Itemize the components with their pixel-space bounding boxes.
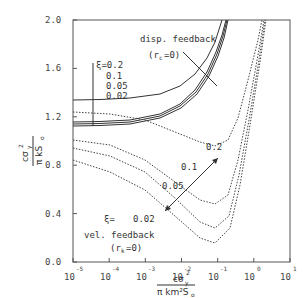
svg-text:0: 0 bbox=[257, 265, 261, 272]
svg-text:y: y bbox=[25, 145, 33, 149]
svg-text:2: 2 bbox=[186, 269, 190, 276]
annotation-disp-feedback: disp. feedback bbox=[140, 34, 216, 44]
svg-text:10: 10 bbox=[208, 272, 219, 282]
svg-text:(r: (r bbox=[148, 50, 159, 60]
x-tick-label: 10-3 bbox=[136, 265, 156, 282]
y-tick-label: 0.4 bbox=[45, 209, 61, 219]
svg-text:π km²S: π km²S bbox=[157, 287, 189, 297]
annotation-xi-0.02-disp: 0.02 bbox=[106, 91, 128, 101]
svg-text:π kS: π kS bbox=[34, 146, 44, 165]
svg-text:10: 10 bbox=[64, 272, 75, 282]
annotation-xi-0.2-vel: 0.2 bbox=[206, 142, 222, 152]
y-tick-label: 0.8 bbox=[45, 160, 61, 170]
chart: 0.0 0.4 0.8 1.2 1.6 2.0 10-5 10-4 10-3 1… bbox=[0, 0, 308, 298]
annotation-disp-rc: (r c =0) bbox=[148, 50, 180, 61]
svg-text:=0): =0) bbox=[164, 50, 180, 60]
svg-text:cσ: cσ bbox=[173, 274, 184, 284]
svg-text:c: c bbox=[159, 54, 163, 61]
y-tick-label: 1.2 bbox=[45, 112, 61, 122]
svg-text:10: 10 bbox=[244, 272, 255, 282]
svg-text:10: 10 bbox=[100, 272, 111, 282]
y-tick-labels: 0.0 0.4 0.8 1.2 1.6 2.0 bbox=[45, 15, 61, 267]
svg-text:=0): =0) bbox=[126, 243, 142, 253]
svg-text:cσ: cσ bbox=[20, 151, 30, 162]
svg-text:-4: -4 bbox=[112, 265, 120, 272]
x-tick-label: 10-5 bbox=[64, 265, 84, 282]
svg-text:-5: -5 bbox=[76, 265, 84, 272]
x-tick-label: 10-1 bbox=[208, 265, 228, 282]
x-tick-label: 100 bbox=[244, 265, 261, 282]
annotation-xi-0.02-vel: 0.02 bbox=[133, 214, 155, 224]
y-axis-label: cσ 2 y π kS o bbox=[17, 136, 45, 166]
annotation-xi-0.1-vel: 0.1 bbox=[181, 162, 197, 172]
svg-text:1: 1 bbox=[293, 265, 297, 272]
svg-text:y: y bbox=[185, 279, 189, 287]
y-tick-label: 2.0 bbox=[45, 15, 61, 25]
annotation-xi-0.05-vel: 0.05 bbox=[162, 181, 184, 191]
svg-text:-3: -3 bbox=[148, 265, 156, 272]
annotation-xi-0.05-disp: 0.05 bbox=[106, 81, 128, 91]
annotation-xi-label-vel: ξ= bbox=[104, 214, 115, 224]
plot-frame bbox=[73, 20, 290, 262]
y-tick-label: 0.0 bbox=[45, 257, 61, 267]
svg-text:10: 10 bbox=[136, 272, 147, 282]
svg-text:o: o bbox=[38, 136, 45, 140]
x-tick-label: 10-4 bbox=[100, 265, 120, 282]
x-tick-label: 101 bbox=[280, 265, 297, 282]
annotation-xi-0.2-disp: ξ=0.2 bbox=[96, 60, 123, 70]
y-tick-label: 1.6 bbox=[45, 63, 61, 73]
annotation-xi-0.1-disp: 0.1 bbox=[106, 71, 122, 81]
svg-text:o: o bbox=[191, 291, 195, 298]
svg-text:2: 2 bbox=[17, 144, 24, 148]
svg-text:k: k bbox=[121, 247, 125, 254]
x-axis-label: cσ 2 y π km²S o bbox=[157, 269, 195, 298]
svg-text:(r: (r bbox=[110, 243, 121, 253]
x-axis bbox=[73, 258, 290, 262]
annotation-vel-feedback: vel. feedback bbox=[84, 230, 155, 240]
y-axis bbox=[73, 20, 77, 262]
svg-text:10: 10 bbox=[280, 272, 291, 282]
annotation-vel-rk: (r k =0) bbox=[110, 243, 142, 254]
svg-text:-1: -1 bbox=[220, 265, 228, 272]
